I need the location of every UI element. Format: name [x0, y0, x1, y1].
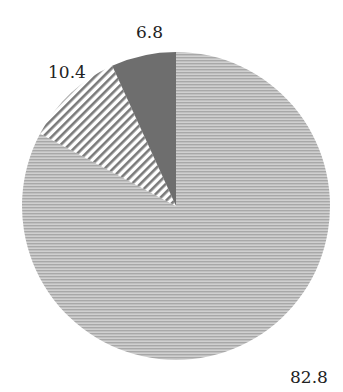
pie-chart: 82.810.46.8	[0, 0, 343, 392]
slice-label-segment-b: 10.4	[48, 62, 86, 82]
slice-label-segment-a: 82.8	[290, 367, 328, 387]
slice-label-segment-c: 6.8	[136, 22, 163, 42]
